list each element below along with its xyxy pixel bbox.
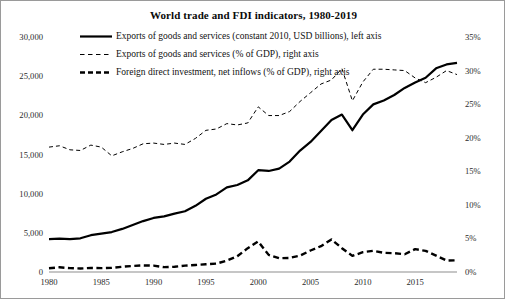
- y-axis-right-tick-label: 30%: [465, 66, 481, 76]
- series-line-2: [49, 239, 457, 268]
- y-axis-right-tick-label: 0%: [465, 267, 476, 277]
- x-axis-tick-label: 1990: [145, 277, 162, 287]
- y-axis-left-tick-label: 30,000: [19, 32, 43, 42]
- y-axis-left-tick-label: 10,000: [19, 189, 43, 199]
- y-axis-left-tick-label: 15,000: [19, 150, 43, 160]
- plot-area: 05,00010,00015,00020,00025,00030,0000%5%…: [1, 1, 505, 299]
- series-line-1: [49, 69, 457, 156]
- y-axis-right-tick-label: 10%: [465, 200, 481, 210]
- series-line-0: [49, 63, 457, 239]
- y-axis-right-tick-label: 35%: [465, 32, 481, 42]
- y-axis-left-tick-label: 5,000: [24, 228, 43, 238]
- y-axis-right-tick-label: 5%: [465, 233, 476, 243]
- x-axis-tick-label: 2010: [354, 277, 371, 287]
- x-axis-tick-label: 1980: [40, 277, 57, 287]
- y-axis-right-tick-label: 15%: [465, 166, 481, 176]
- y-axis-left-tick-label: 25,000: [19, 71, 43, 81]
- y-axis-left-tick-label: 20,000: [19, 110, 43, 120]
- x-axis-tick-label: 2000: [250, 277, 267, 287]
- y-axis-left-tick-label: 0: [39, 267, 43, 277]
- x-axis-tick-label: 1995: [197, 277, 214, 287]
- x-axis-tick-label: 1985: [93, 277, 110, 287]
- x-axis-tick-label: 2015: [407, 277, 424, 287]
- chart-figure: World trade and FDI indicators, 1980-201…: [0, 0, 505, 299]
- y-axis-right-tick-label: 25%: [465, 99, 481, 109]
- y-axis-right-tick-label: 20%: [465, 133, 481, 143]
- x-axis-tick-label: 2005: [302, 277, 319, 287]
